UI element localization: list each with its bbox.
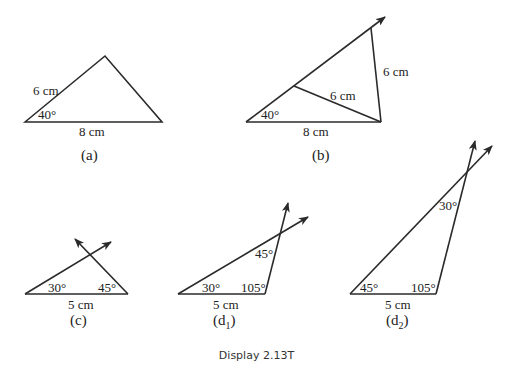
angle-label-c-left: 30° bbox=[48, 280, 66, 295]
angle-label-b: 40° bbox=[261, 107, 279, 122]
figure-c: 30° 45° 5 cm (c) bbox=[25, 239, 128, 329]
figure-label-c: (c) bbox=[70, 312, 87, 329]
figure-label-d2: (d2) bbox=[386, 312, 409, 331]
figure-caption: Display 2.13T bbox=[0, 349, 513, 362]
angle-label-d1-top: 45° bbox=[255, 246, 273, 261]
outer-side-label-b: 6 cm bbox=[383, 64, 409, 79]
base-label-d1: 5 cm bbox=[213, 297, 239, 312]
inner-side-label-b: 6 cm bbox=[330, 88, 356, 103]
side-label-a-left: 6 cm bbox=[33, 83, 59, 98]
base-label-a: 8 cm bbox=[79, 124, 105, 139]
ray-d2-left bbox=[350, 146, 492, 294]
angle-label-d2-right: 105° bbox=[411, 280, 436, 295]
figure-d2: 45° 105° 30° 5 cm (d2) bbox=[350, 141, 492, 331]
base-label-c: 5 cm bbox=[68, 297, 94, 312]
figure-a: 6 cm 40° 8 cm (a) bbox=[25, 56, 162, 164]
figure-label-a: (a) bbox=[81, 147, 98, 164]
angle-label-d2-left: 45° bbox=[360, 280, 378, 295]
angle-label-d1-right: 105° bbox=[241, 280, 266, 295]
base-label-d2: 5 cm bbox=[385, 297, 411, 312]
angle-label-d2-top: 30° bbox=[439, 198, 457, 213]
outer-side-b bbox=[371, 28, 381, 122]
base-label-b: 8 cm bbox=[303, 124, 329, 139]
diagram-canvas: 6 cm 40° 8 cm (a) 40° 8 cm 6 cm 6 cm (b)… bbox=[0, 0, 513, 375]
ray-d2-right bbox=[436, 141, 475, 294]
angle-label-d1-left: 30° bbox=[202, 280, 220, 295]
figure-b: 40° 8 cm 6 cm 6 cm (b) bbox=[246, 17, 409, 164]
figure-label-d1: (d1) bbox=[213, 312, 236, 331]
angle-label-a: 40° bbox=[38, 107, 56, 122]
angle-label-c-right: 45° bbox=[98, 280, 116, 295]
figure-d1: 30° 105° 45° 5 cm (d1) bbox=[178, 203, 308, 331]
figure-label-b: (b) bbox=[312, 147, 330, 164]
